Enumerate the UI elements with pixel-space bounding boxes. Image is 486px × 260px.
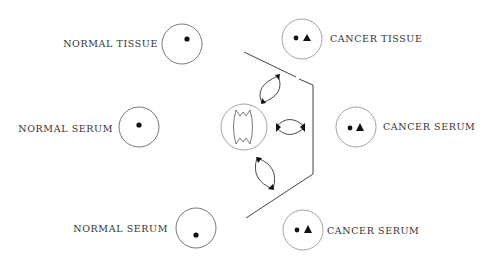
well-cancer-serum-bottom: [283, 210, 323, 250]
well-cancer-tissue: [282, 19, 322, 59]
antigen-dot-icon: [136, 122, 141, 127]
well-normal-serum-bottom: [176, 208, 216, 248]
well-normal-tissue: [162, 24, 202, 64]
antigen-dot-icon: [295, 228, 300, 233]
antigen-triangle-icon: [304, 225, 312, 233]
antigen-dot-icon: [184, 36, 189, 41]
well-normal-serum-mid: [119, 107, 159, 147]
label-normal-tissue: NORMAL TISSUE: [63, 38, 158, 49]
antigen-triangle-icon: [356, 123, 364, 131]
label-cancer-tissue: CANCER TISSUE: [330, 33, 423, 44]
label-normal-serum-mid: NORMAL SERUM: [18, 123, 113, 134]
precipitin-arc-upper: [260, 74, 280, 104]
antigen-dot-icon: [193, 232, 198, 237]
arrow-marker-icon: [261, 98, 266, 104]
precipitin-arc-middle: [276, 120, 305, 135]
well-center-antiserum: [221, 104, 267, 150]
label-cancer-serum-mid: CANCER SERUM: [383, 121, 475, 132]
well-cancer-serum-mid: [336, 107, 376, 147]
antiserum-shape-icon: [234, 110, 253, 144]
label-normal-serum-bottom: NORMAL SERUM: [73, 223, 168, 234]
antigen-dot-icon: [294, 36, 299, 41]
antigen-dot-icon: [348, 126, 353, 131]
immunodiffusion-diagram: NORMAL TISSUE CANCER TISSUE NORMAL SERUM…: [0, 0, 486, 260]
precipitin-arc-lower: [255, 157, 274, 190]
antigen-triangle-icon: [303, 34, 311, 41]
label-cancer-serum-bottom: CANCER SERUM: [327, 225, 419, 236]
